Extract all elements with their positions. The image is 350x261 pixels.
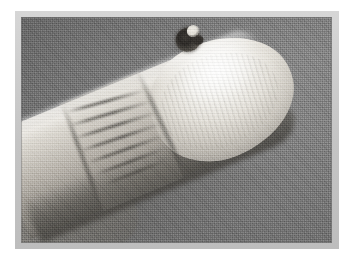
- clinical-photograph: [21, 17, 332, 243]
- screenshot-root: [0, 0, 350, 261]
